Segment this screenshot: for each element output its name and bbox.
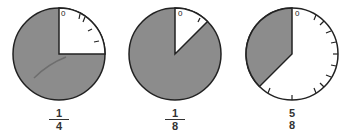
fraction-label: 5 8 (282, 108, 302, 130)
dial-five-eighths: 0 5 8 (0, 0, 116, 133)
svg-text:0: 0 (295, 9, 300, 18)
